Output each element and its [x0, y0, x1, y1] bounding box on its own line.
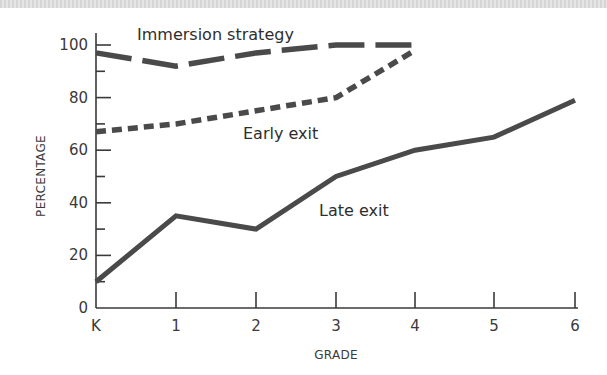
y-tick-labels: 0 20 40 60 80 100 [59, 36, 88, 317]
x-tick-1: 1 [171, 317, 181, 335]
y-axis-title: PERCENTAGE [34, 135, 48, 217]
x-axis [96, 292, 578, 308]
x-tick-labels: K 1 2 3 4 5 6 [91, 317, 580, 335]
label-early-exit: Early exit [243, 124, 318, 143]
x-tick-3: 3 [331, 317, 341, 335]
label-immersion-strategy: Immersion strategy [137, 25, 294, 44]
x-tick-2: 2 [251, 317, 261, 335]
x-tick-5: 5 [489, 317, 499, 335]
y-axis [96, 33, 111, 308]
y-tick-60: 60 [69, 141, 88, 159]
x-tick-k: K [91, 317, 102, 335]
label-late-exit: Late exit [319, 201, 389, 220]
line-chart: 0 20 40 60 80 100 K 1 2 3 4 5 6 GRADE PE… [0, 0, 607, 375]
y-tick-40: 40 [69, 194, 88, 212]
y-tick-0: 0 [78, 299, 88, 317]
x-tick-4: 4 [410, 317, 420, 335]
y-tick-100: 100 [59, 36, 88, 54]
y-tick-80: 80 [69, 89, 88, 107]
x-tick-6: 6 [570, 317, 580, 335]
y-tick-20: 20 [69, 246, 88, 264]
series-immersion-line [96, 45, 415, 66]
x-axis-title: GRADE [314, 348, 358, 362]
